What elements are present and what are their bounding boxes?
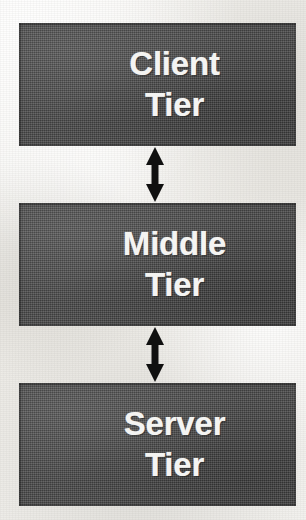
tier-label-middle-line-1: Middle bbox=[123, 225, 226, 263]
double-arrow-icon-client-middle bbox=[141, 146, 169, 203]
tier-label-server-line-1: Server bbox=[124, 405, 226, 443]
tier-box-client: Client Tier bbox=[19, 23, 296, 146]
three-tier-diagram: Client Tier Middle Tier Server Tier bbox=[0, 0, 306, 520]
tier-box-server: Server Tier bbox=[19, 383, 296, 506]
tier-label-server-line-2: Tier bbox=[145, 446, 204, 484]
double-arrow-icon-middle-server bbox=[141, 326, 169, 383]
tier-label-client: Client Tier bbox=[19, 23, 296, 146]
tier-box-middle: Middle Tier bbox=[19, 203, 296, 326]
tier-label-server: Server Tier bbox=[19, 383, 296, 506]
tier-label-client-line-1: Client bbox=[129, 45, 219, 83]
tier-label-middle: Middle Tier bbox=[19, 203, 296, 326]
tier-label-client-line-2: Tier bbox=[145, 86, 204, 124]
tier-label-middle-line-2: Tier bbox=[145, 266, 204, 304]
